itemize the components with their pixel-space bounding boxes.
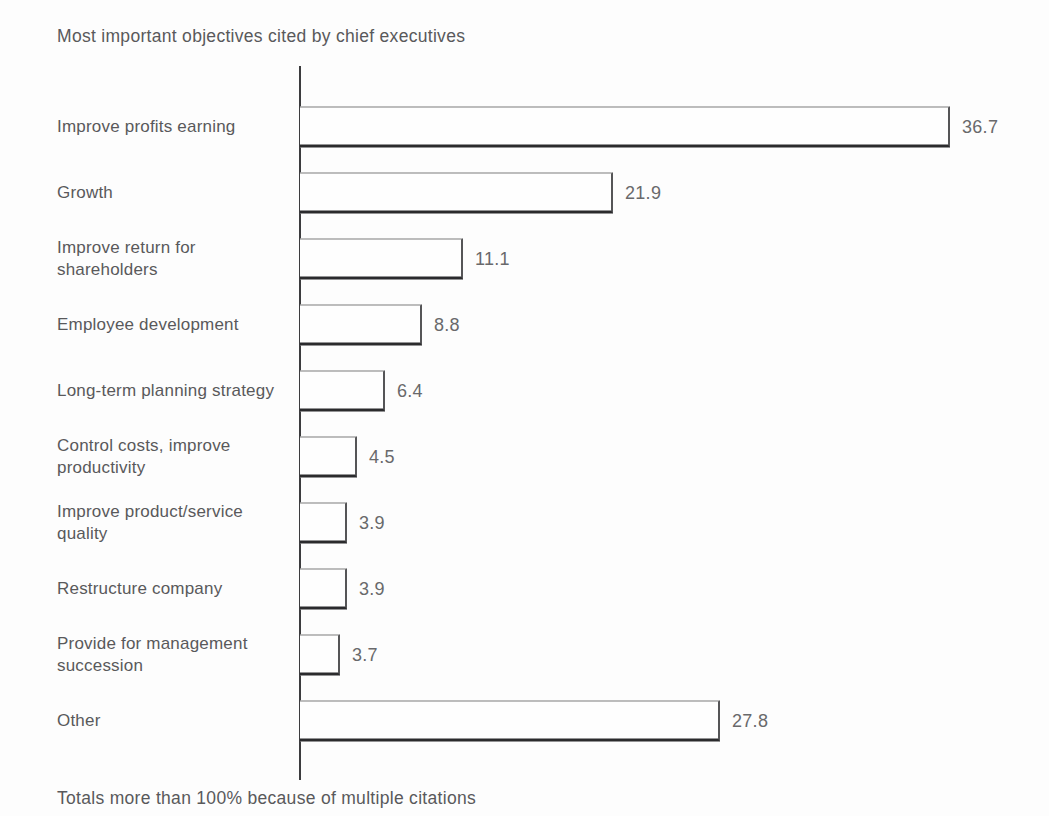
bar-group: 11.1 — [300, 239, 510, 280]
bar — [300, 635, 340, 676]
chart-row: Provide for management succession 3.7 — [0, 622, 1049, 688]
chart-row: Other 27.8 — [0, 688, 1049, 754]
category-label: Control costs, improve productivity — [57, 435, 285, 480]
bar — [300, 503, 347, 544]
bar-group: 27.8 — [300, 701, 768, 742]
value-label: 3.9 — [359, 513, 385, 534]
category-label: Provide for management succession — [57, 633, 285, 678]
bar-group: 3.9 — [300, 503, 385, 544]
bar — [300, 371, 385, 412]
value-label: 11.1 — [475, 249, 510, 270]
category-label: Improve return for shareholders — [57, 237, 285, 282]
chart-title: Most important objectives cited by chief… — [57, 26, 465, 47]
category-label: Other — [57, 710, 285, 732]
bar-group: 4.5 — [300, 437, 395, 478]
chart-row: Improve product/service quality 3.9 — [0, 490, 1049, 556]
category-label: Improve profits earning — [57, 116, 285, 138]
bar-group: 8.8 — [300, 305, 460, 346]
bar — [300, 239, 463, 280]
bar — [300, 701, 720, 742]
bar-group: 3.9 — [300, 569, 385, 610]
chart-row: Long-term planning strategy 6.4 — [0, 358, 1049, 424]
bar — [300, 437, 357, 478]
chart-row: Employee development 8.8 — [0, 292, 1049, 358]
chart-row: Restructure company 3.9 — [0, 556, 1049, 622]
scanned-chart-page: Most important objectives cited by chief… — [0, 0, 1049, 816]
category-label: Long-term planning strategy — [57, 380, 285, 402]
bar-group: 21.9 — [300, 173, 661, 214]
value-label: 6.4 — [397, 381, 423, 402]
bar — [300, 569, 347, 610]
value-label: 27.8 — [732, 711, 768, 732]
chart-row: Growth 21.9 — [0, 160, 1049, 226]
value-label: 3.9 — [359, 579, 385, 600]
bar — [300, 107, 950, 148]
value-label: 21.9 — [625, 183, 661, 204]
bar-group: 36.7 — [300, 107, 998, 148]
chart-row: Control costs, improve productivity 4.5 — [0, 424, 1049, 490]
category-label: Improve product/service quality — [57, 501, 285, 546]
value-label: 4.5 — [369, 447, 395, 468]
category-label: Growth — [57, 182, 285, 204]
bar-chart: Improve profits earning 36.7 Growth 21.9… — [0, 94, 1049, 754]
chart-row: Improve profits earning 36.7 — [0, 94, 1049, 160]
value-label: 8.8 — [434, 315, 460, 336]
category-label: Restructure company — [57, 578, 285, 600]
bar — [300, 173, 613, 214]
value-label: 3.7 — [352, 645, 378, 666]
bar-group: 6.4 — [300, 371, 423, 412]
chart-row: Improve return for shareholders 11.1 — [0, 226, 1049, 292]
chart-footnote: Totals more than 100% because of multipl… — [57, 788, 476, 809]
category-label: Employee development — [57, 314, 285, 336]
value-label: 36.7 — [962, 117, 998, 138]
bar-group: 3.7 — [300, 635, 378, 676]
bar — [300, 305, 422, 346]
